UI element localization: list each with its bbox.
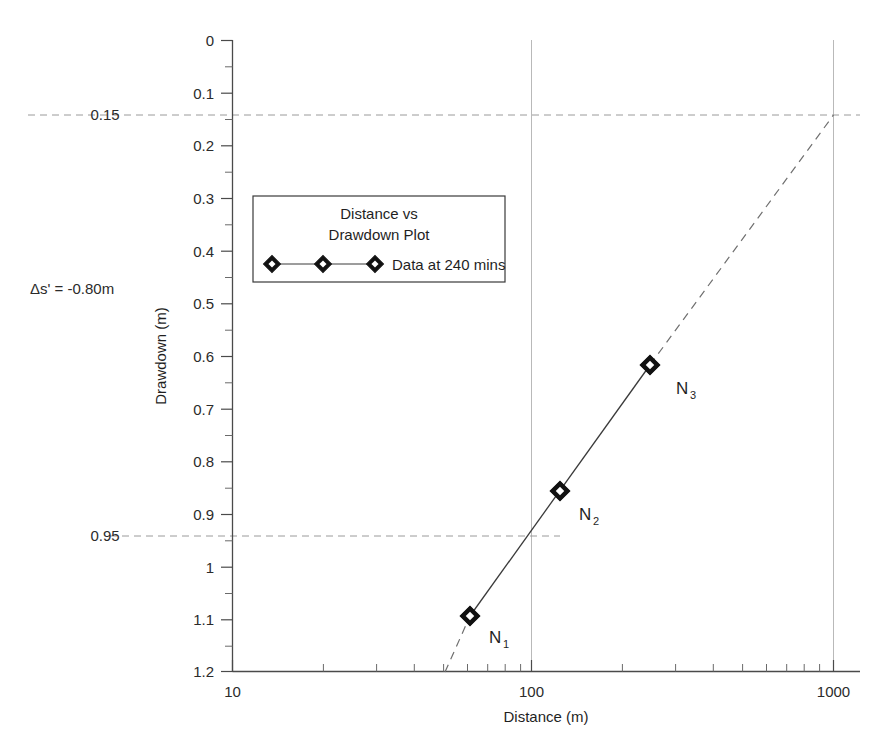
y-axis-ticks — [221, 41, 233, 672]
y-tick-label: 0.6 — [193, 348, 214, 365]
delta-s-prime-annotation: Δs' = -0.80m — [30, 280, 114, 297]
legend-entry-label: Data at 240 mins — [392, 256, 505, 273]
y-axis-tick-labels: 0 0.1 0.2 0.3 0.4 0.5 0.6 0.7 0.8 0.9 1 … — [193, 32, 214, 680]
y-tick-label: 0.4 — [193, 243, 214, 260]
y-tick-label: 0 — [206, 32, 214, 49]
y-tick-label: 1 — [206, 559, 214, 576]
reference-label-lower: 0.95 — [90, 527, 119, 544]
y-axis-title: Drawdown (m) — [152, 307, 169, 405]
data-point-label-n1: N 1 — [489, 628, 509, 650]
data-point-label-n3: N 3 — [676, 379, 696, 401]
data-point-label-base: N — [579, 505, 591, 524]
chart-legend[interactable]: Distance vs Drawdown Plot Data at 240 mi… — [253, 196, 505, 282]
x-axis-ticks — [233, 660, 834, 672]
data-point-n3[interactable] — [640, 355, 660, 375]
gridlines — [532, 40, 834, 672]
x-tick-label: 1000 — [817, 683, 850, 700]
data-point-label-base: N — [676, 379, 688, 398]
y-tick-label: 0.2 — [193, 137, 214, 154]
x-tick-label: 10 — [224, 683, 241, 700]
data-point-label-n2: N 2 — [579, 505, 599, 527]
x-tick-label: 100 — [519, 683, 544, 700]
legend-title-line-1: Distance vs — [340, 205, 418, 222]
data-point-label-subscript: 2 — [593, 515, 599, 527]
y-tick-label: 1.2 — [193, 663, 214, 680]
data-point-n1[interactable] — [460, 606, 480, 626]
fit-line-lower-extension — [445, 616, 470, 672]
y-tick-label: 0.7 — [193, 401, 214, 418]
y-tick-label: 0.1 — [193, 85, 214, 102]
distance-drawdown-chart: 0 0.1 0.2 0.3 0.4 0.5 0.6 0.7 0.8 0.9 1 … — [0, 0, 880, 744]
y-tick-label: 1.1 — [193, 611, 214, 628]
data-point-label-subscript: 3 — [690, 389, 696, 401]
data-point-label-base: N — [489, 628, 501, 647]
x-axis-title: Distance (m) — [503, 708, 588, 725]
data-point-n2[interactable] — [550, 481, 570, 501]
data-point-label-subscript: 1 — [503, 638, 509, 650]
y-tick-label: 0.9 — [193, 506, 214, 523]
y-tick-label: 0.5 — [193, 295, 214, 312]
reference-label-upper: 0.15 — [90, 106, 119, 123]
y-tick-label: 0.8 — [193, 453, 214, 470]
fit-line-upper-extension — [650, 115, 834, 365]
legend-title-line-2: Drawdown Plot — [329, 226, 431, 243]
x-axis-tick-labels: 10 100 1000 — [224, 683, 850, 700]
chart-page: 0 0.1 0.2 0.3 0.4 0.5 0.6 0.7 0.8 0.9 1 … — [0, 0, 880, 744]
y-tick-label: 0.3 — [193, 190, 214, 207]
